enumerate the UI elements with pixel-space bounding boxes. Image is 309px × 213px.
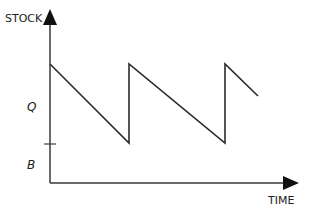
stock-time-diagram [0,0,309,213]
x-axis-arrow-icon [283,176,299,190]
y-axis-label: STOCK [5,13,42,24]
y-axis-arrow-icon [43,9,57,25]
buffer-stock-label: B [27,159,35,171]
stock-level-sawtooth [50,64,258,143]
x-axis-label: TIME [268,195,294,206]
order-quantity-label: Q [27,101,36,113]
